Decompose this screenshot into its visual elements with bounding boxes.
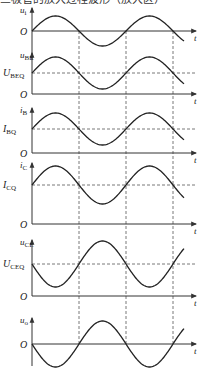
- origin-label: O: [20, 219, 27, 230]
- quiescent-label: UBEQ: [3, 67, 24, 80]
- quiescent-label: UCEQ: [3, 258, 24, 271]
- y-axis-label: uCE: [20, 237, 33, 249]
- y-axis-label: iB: [20, 105, 28, 117]
- waveform-diagram: tOuitOuBEUBEQtOiBIBQtOiCICQtOuCEUCEQtOuo: [0, 0, 206, 378]
- time-axis-label: t: [194, 96, 197, 106]
- time-axis-label: t: [194, 33, 197, 43]
- time-axis-label: t: [194, 298, 197, 308]
- panel-ui: tOui: [20, 5, 197, 60]
- panel-ib: tOiBIBQ: [2, 105, 197, 165]
- y-axis-label: uo: [20, 315, 29, 327]
- time-axis-label: t: [194, 155, 197, 165]
- panel-uo: tOuo: [20, 315, 197, 367]
- y-axis-label: uBE: [20, 50, 33, 62]
- y-axis-label: iC: [20, 160, 28, 172]
- origin-label: O: [20, 89, 27, 100]
- period-marker-lines: [79, 31, 173, 344]
- origin-label: O: [20, 26, 27, 37]
- quiescent-label: ICQ: [2, 179, 16, 192]
- origin-label: O: [20, 291, 27, 302]
- panel-ic: tOiCICQ: [2, 160, 197, 236]
- time-axis-label: t: [194, 346, 197, 356]
- time-axis-label: t: [194, 226, 197, 236]
- origin-label: O: [20, 339, 27, 350]
- panel-uce: tOuCEUCEQ: [3, 237, 197, 308]
- origin-label: O: [20, 148, 27, 159]
- panel-ube: tOuBEUBEQ: [3, 50, 197, 106]
- quiescent-label: IBQ: [2, 123, 16, 136]
- y-axis-label: ui: [20, 5, 27, 17]
